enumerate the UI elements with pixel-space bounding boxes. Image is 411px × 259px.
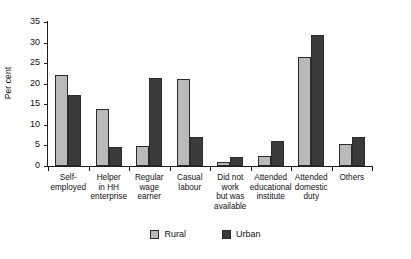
y-axis-tick [44, 22, 48, 23]
y-axis-tick-label: 10 [0, 119, 40, 129]
x-axis-tick [48, 166, 49, 171]
bar-rural [177, 79, 190, 166]
y-axis-tick [44, 43, 48, 44]
bar-rural [217, 162, 230, 166]
bar-urban [311, 35, 324, 166]
bar-urban [190, 137, 203, 166]
x-axis-tick [170, 166, 171, 171]
x-axis-tick [332, 166, 333, 171]
y-axis-tick-label: 20 [0, 78, 40, 88]
bar-rural [339, 144, 352, 166]
legend-label-rural: Rural [164, 229, 186, 239]
x-axis-tick [372, 166, 373, 171]
y-axis-tick-label: 5 [0, 139, 40, 149]
chart-legend: Rural Urban [0, 229, 411, 239]
x-axis-tick [291, 166, 292, 171]
y-axis-tick [44, 63, 48, 64]
bar-urban [230, 157, 243, 166]
legend-label-urban: Urban [236, 229, 261, 239]
bar-rural [136, 146, 149, 166]
y-axis-tick [44, 145, 48, 146]
legend-item-rural: Rural [150, 229, 186, 239]
x-axis-tick [89, 166, 90, 171]
x-axis-tick [210, 166, 211, 171]
y-axis-tick-label: 15 [0, 98, 40, 108]
y-axis-tick-label: 0 [0, 160, 40, 170]
bar-urban [149, 78, 162, 166]
bar-rural [96, 109, 109, 166]
y-axis-tick-label: 25 [0, 57, 40, 67]
bar-chart: Per cent Rural Urban 05101520253035Self-… [0, 0, 411, 259]
y-axis-tick [44, 125, 48, 126]
y-axis-tick [44, 84, 48, 85]
y-axis-tick [44, 104, 48, 105]
legend-swatch-urban-icon [222, 230, 231, 239]
bar-urban [352, 137, 365, 166]
bar-urban [109, 147, 122, 166]
legend-swatch-rural-icon [150, 230, 159, 239]
y-axis-tick-label: 30 [0, 37, 40, 47]
x-axis-category-label: Others [327, 173, 378, 183]
bar-urban [271, 141, 284, 166]
bar-rural [55, 75, 68, 166]
bar-rural [258, 156, 271, 166]
y-axis-tick-label: 35 [0, 16, 40, 26]
bar-urban [68, 95, 81, 166]
x-axis-tick [129, 166, 130, 171]
legend-item-urban: Urban [222, 229, 261, 239]
x-axis-tick [251, 166, 252, 171]
bar-rural [298, 57, 311, 166]
